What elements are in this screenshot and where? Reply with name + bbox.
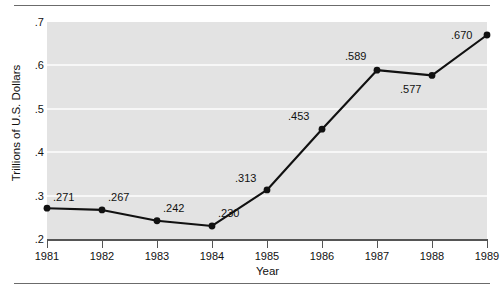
- x-axis-tick: [157, 241, 158, 248]
- data-point-label-1989: .670: [451, 29, 472, 41]
- x-axis-tick-label: 1984: [190, 250, 234, 263]
- gridline: [47, 151, 487, 153]
- data-point-label-1983: .242: [163, 202, 184, 214]
- y-axis-title: Trillions of U.S. Dollars: [10, 43, 22, 203]
- data-point-label-1982: .267: [108, 191, 129, 203]
- x-axis-tick-label: 1989: [465, 250, 504, 263]
- gridline: [47, 64, 487, 66]
- data-point-label-1984: .230: [218, 207, 239, 219]
- x-axis-tick-label: 1988: [410, 250, 454, 263]
- data-point-label-1987: .589: [345, 50, 366, 62]
- x-axis-tick: [432, 241, 433, 248]
- x-axis-tick: [487, 241, 488, 248]
- x-axis-tick-label: 1986: [300, 250, 344, 263]
- x-axis-tick: [267, 241, 268, 248]
- y-axis-tick-label: .7: [22, 17, 44, 28]
- x-axis-tick-label: 1983: [135, 250, 179, 263]
- x-axis-tick-label: 1985: [245, 250, 289, 263]
- y-axis-tick-label: .5: [22, 104, 44, 115]
- plot-area: [47, 22, 487, 239]
- y-axis-tick-label: .2: [22, 234, 44, 245]
- top-horizontal-rule: [14, 5, 490, 6]
- x-axis-tick: [377, 241, 378, 248]
- chart-figure: 198119821983198419851986198719881989 .2.…: [0, 0, 504, 290]
- x-axis-tick-label: 1982: [80, 250, 124, 263]
- gridline: [47, 108, 487, 110]
- x-axis-tick: [47, 241, 48, 248]
- data-point-label-1986: .453: [288, 110, 309, 122]
- data-point-label-1981: .271: [53, 191, 74, 203]
- bottom-horizontal-rule: [14, 283, 490, 284]
- y-axis-tick-label: .3: [22, 191, 44, 202]
- x-axis-tick: [212, 241, 213, 248]
- x-axis-title: Year: [47, 265, 488, 277]
- x-axis-tick: [322, 241, 323, 248]
- y-axis-tick-label: .6: [22, 60, 44, 71]
- data-point-label-1988: .577: [400, 83, 421, 95]
- x-axis-tick-label: 1987: [355, 250, 399, 263]
- y-axis-tick-label: .4: [22, 147, 44, 158]
- x-axis-tick: [102, 241, 103, 248]
- data-point-label-1985: .313: [235, 172, 256, 184]
